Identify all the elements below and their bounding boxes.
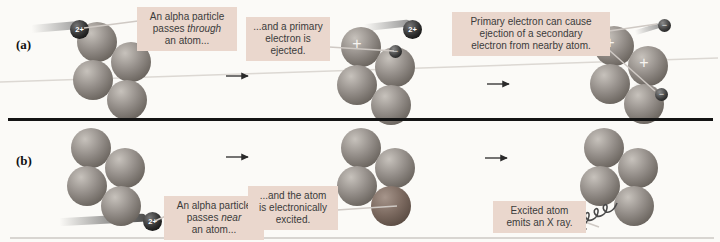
caption-a-step3: Primary electron can cause ejection of a… <box>452 12 610 56</box>
caption-text: an atom... <box>165 35 209 46</box>
atom-b-step2-excited <box>325 128 415 226</box>
negative-charge-icon: − <box>659 90 664 99</box>
caption-b-step3: Excited atom emits an X ray. <box>493 201 586 233</box>
caption-emphasis: near <box>221 212 241 223</box>
nucleon-sphere <box>618 148 658 188</box>
caption-text: Excited atom emits an X ray. <box>507 205 573 228</box>
negative-charge-icon: − <box>662 21 667 30</box>
alpha-charge-label: 2+ <box>148 217 157 226</box>
caption-a-step2: ...and a primary electron is ejected. <box>246 17 330 61</box>
primary-electron: − <box>389 45 402 58</box>
atom-a-step2-ionized: + <box>325 27 415 125</box>
positive-charge-icon: + <box>352 36 361 52</box>
alpha-particle: 2+ <box>70 20 89 39</box>
alpha-particle: 2+ <box>403 20 422 39</box>
nucleon-sphere <box>107 80 147 120</box>
caption-b-step2: ...and the atom is electronically excite… <box>248 186 338 230</box>
ejected-electron: − <box>658 19 671 32</box>
alpha-charge-label: 2+ <box>75 25 84 34</box>
alpha-charge-label: 2+ <box>408 25 417 34</box>
panel-a-label: (a) <box>16 37 31 53</box>
caption-text: ...and a primary electron is ejected. <box>253 21 322 56</box>
ejected-electron: − <box>655 88 668 101</box>
nucleon-sphere <box>375 148 415 188</box>
caption-text: Primary electron can cause ejection of a… <box>470 16 591 51</box>
row-divider <box>8 118 713 121</box>
ionized-sphere: + <box>628 46 668 86</box>
caption-text: an atom... <box>192 224 236 235</box>
positive-charge-icon: + <box>639 55 648 71</box>
nucleon-sphere <box>614 186 654 226</box>
nucleon-sphere <box>105 148 145 188</box>
caption-text: ...and the atom is electronically excite… <box>259 190 327 225</box>
nucleon-sphere <box>101 186 141 226</box>
caption-emphasis: through <box>187 23 221 34</box>
alpha-particle-interaction-diagram: + + + 2+ 2+ 2+ − − <box>0 0 720 242</box>
panel-b-label: (b) <box>16 153 32 169</box>
negative-charge-icon: − <box>393 47 398 56</box>
caption-a-step1: An alpha particle passes through an atom… <box>137 7 237 51</box>
excited-sphere <box>371 186 411 226</box>
alpha-particle: 2+ <box>143 212 162 231</box>
atom-b-step1 <box>55 128 145 226</box>
